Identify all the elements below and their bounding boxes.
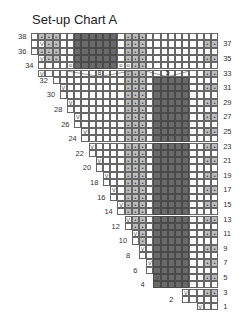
chart-cell: [211, 186, 218, 193]
chart-cell: [204, 128, 211, 135]
chart-cell: [132, 106, 139, 113]
chart-cell: [103, 157, 110, 164]
chart-cell: [89, 121, 96, 128]
chart-cell: [103, 164, 110, 171]
chart-cell: [96, 157, 103, 164]
chart-cell: [153, 274, 160, 281]
row-label-right: 7: [223, 258, 227, 267]
chart-cell: [74, 55, 81, 62]
row-label-left: 2: [169, 295, 173, 304]
chart-cell: [67, 84, 74, 91]
chart-cell: [117, 121, 124, 128]
chart-cell: [161, 274, 168, 281]
chart-cell: [67, 33, 74, 40]
chart-cell: [103, 55, 110, 62]
chart-cell: [74, 121, 81, 128]
chart-cell: [182, 55, 189, 62]
chart-cell: [153, 157, 160, 164]
chart-cell: [74, 106, 81, 113]
chart-cell: [197, 99, 204, 106]
chart-cell: [31, 48, 38, 55]
chart-cell: [60, 84, 67, 91]
chart-cell: [182, 237, 189, 244]
chart-cell: [60, 91, 67, 98]
chart-cell: [67, 48, 74, 55]
chart-cell: [96, 135, 103, 142]
chart-cell: [117, 106, 124, 113]
chart-cell: [53, 77, 60, 84]
chart-cell: [103, 40, 110, 47]
chart-cell: [161, 223, 168, 230]
row-label-right: 23: [223, 142, 231, 151]
chart-cell: [189, 121, 196, 128]
chart-cell: [153, 55, 160, 62]
chart-cell: [204, 91, 211, 98]
chart-cell: [168, 48, 175, 55]
chart-cell: [132, 48, 139, 55]
chart-cell: [182, 113, 189, 120]
chart-cell: [31, 40, 38, 47]
chart-cell: [175, 135, 182, 142]
chart-cell: [197, 135, 204, 142]
chart-cell: [189, 143, 196, 150]
chart-cell: [161, 143, 168, 150]
chart-cell: [74, 77, 81, 84]
chart-cell: [204, 267, 211, 274]
chart-cell: [53, 48, 60, 55]
chart-cell: [146, 91, 153, 98]
chart-cell: [146, 216, 153, 223]
chart-cell: [197, 216, 204, 223]
chart-cell: [161, 216, 168, 223]
chart-cell: [182, 150, 189, 157]
chart-cell: [153, 62, 160, 69]
row-label-left: 24: [68, 134, 76, 143]
chart-cell: [161, 186, 168, 193]
chart-cell: [153, 223, 160, 230]
chart-cell: [153, 201, 160, 208]
chart-cell: [153, 208, 160, 215]
chart-cell: [204, 62, 211, 69]
row-label-right: 5: [223, 273, 227, 282]
chart-cell: [153, 143, 160, 150]
chart-cell: [168, 164, 175, 171]
chart-cell: [211, 121, 218, 128]
chart-cell: [45, 62, 52, 69]
row-label-right: 13: [223, 215, 231, 224]
chart-cell: [81, 91, 88, 98]
chart-cell: [189, 91, 196, 98]
chart-cell: [103, 62, 110, 69]
chart-cell: [139, 91, 146, 98]
chart-cell: [81, 55, 88, 62]
chart-cell: [31, 33, 38, 40]
chart-cell: [38, 33, 45, 40]
chart-cell: [197, 267, 204, 274]
row-label-left: 20: [83, 163, 91, 172]
row-label-right: 15: [223, 200, 231, 209]
chart-cell: [153, 237, 160, 244]
chart-cell: [139, 135, 146, 142]
chart-cell: [139, 237, 146, 244]
chart-cell: [132, 157, 139, 164]
chart-cell: [161, 128, 168, 135]
chart-cell: [89, 99, 96, 106]
chart-cell: [103, 179, 110, 186]
chart-cell: [161, 121, 168, 128]
chart-cell: [197, 150, 204, 157]
chart-cell: [45, 40, 52, 47]
chart-cell: [132, 121, 139, 128]
chart-cell: [204, 230, 211, 237]
chart-cell: [168, 267, 175, 274]
chart-cell: [211, 99, 218, 106]
chart-cell: [146, 245, 153, 252]
chart-cell: [211, 303, 218, 310]
chart-cell: [175, 40, 182, 47]
chart-cell: [168, 237, 175, 244]
chart-cell: [161, 157, 168, 164]
row-label-left: 4: [140, 280, 144, 289]
chart-cell: [182, 186, 189, 193]
chart-cell: [81, 113, 88, 120]
chart-cell: [197, 84, 204, 91]
chart-cell: [139, 121, 146, 128]
chart-cell: [182, 201, 189, 208]
chart-cell: [204, 259, 211, 266]
